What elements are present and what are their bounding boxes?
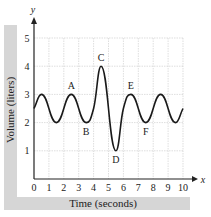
- x-axis-arrow-icon: [192, 176, 198, 182]
- x-tick-label: 10: [178, 182, 188, 193]
- annotation-b: B: [83, 126, 90, 137]
- x-tick-label: 5: [106, 182, 111, 193]
- x-tick-label: 3: [76, 182, 81, 193]
- y-axis-arrow-icon: [31, 17, 37, 24]
- y-axis-symbol: y: [30, 4, 36, 15]
- y-tick-label: 1: [25, 145, 30, 156]
- x-tick-label: 0: [32, 182, 37, 193]
- annotation-e: E: [128, 80, 134, 91]
- annotation-a: A: [68, 80, 76, 91]
- annotation-c: C: [98, 52, 105, 63]
- x-tick-label: 9: [166, 182, 171, 193]
- x-tick-label: 4: [91, 182, 96, 193]
- x-tick-label: 7: [136, 182, 141, 193]
- x-axis-symbol: x: [200, 174, 206, 185]
- x-tick-label: 8: [151, 182, 156, 193]
- x-tick-label: 2: [61, 182, 66, 193]
- y-tick-label: 5: [25, 33, 30, 44]
- annotation-f: F: [143, 126, 149, 137]
- y-tick-label: 2: [25, 117, 30, 128]
- line-chart: yx 01234567891012345 ABCDEF: [0, 0, 211, 217]
- y-tick-label: 4: [25, 61, 30, 72]
- y-tick-label: 3: [25, 89, 30, 100]
- annotation-d: D: [112, 154, 119, 165]
- x-tick-label: 1: [46, 182, 51, 193]
- x-tick-label: 6: [121, 182, 126, 193]
